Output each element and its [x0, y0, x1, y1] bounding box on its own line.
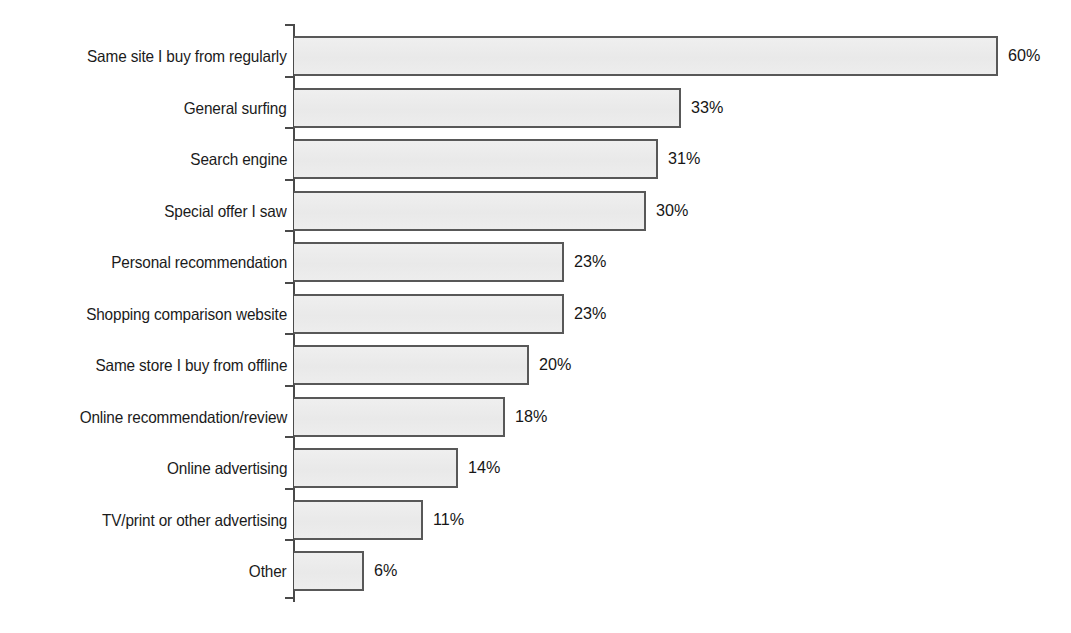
bar-row: Same site I buy from regularly60% [0, 36, 1071, 76]
value-label: 18% [515, 397, 547, 437]
value-label: 14% [468, 448, 500, 488]
bar [294, 500, 423, 540]
bar [294, 191, 646, 231]
value-label: 23% [574, 242, 606, 282]
bar [294, 345, 529, 385]
category-label: Online recommendation/review [79, 397, 287, 437]
category-label: Special offer I saw [165, 191, 287, 231]
axis-tick [285, 76, 293, 78]
axis-tick [285, 597, 293, 599]
bar-row: General surfing33% [0, 88, 1071, 128]
bar [294, 36, 998, 76]
bar-fill [294, 296, 562, 332]
bar-fill [294, 347, 527, 383]
bar [294, 242, 564, 282]
bar-row: Online advertising14% [0, 448, 1071, 488]
bar [294, 294, 564, 334]
value-label: 30% [656, 191, 688, 231]
category-label: TV/print or other advertising [102, 500, 287, 540]
bar-fill [294, 193, 644, 229]
bar-chart: Same site I buy from regularly60%General… [0, 0, 1071, 633]
value-label: 60% [1008, 36, 1040, 76]
category-label: Other [249, 551, 287, 591]
bar [294, 397, 505, 437]
bar-row: TV/print or other advertising11% [0, 500, 1071, 540]
bar-fill [294, 244, 562, 280]
category-label: General surfing [184, 88, 287, 128]
category-label: Shopping comparison website [86, 294, 287, 334]
bar [294, 551, 364, 591]
bar-row: Personal recommendation23% [0, 242, 1071, 282]
category-label: Same store I buy from offline [95, 345, 287, 385]
axis-tick [285, 24, 293, 26]
axis-tick [285, 179, 293, 181]
bar-row: Same store I buy from offline20% [0, 345, 1071, 385]
value-label: 33% [691, 88, 723, 128]
value-label: 23% [574, 294, 606, 334]
value-label: 20% [539, 345, 571, 385]
bar-fill [294, 90, 679, 126]
bar-fill [294, 399, 503, 435]
bar-row: Special offer I saw30% [0, 191, 1071, 231]
bar-fill [294, 141, 656, 177]
category-label: Personal recommendation [111, 242, 287, 282]
bar-fill [294, 502, 421, 538]
category-label: Same site I buy from regularly [87, 36, 287, 76]
bar-row: Search engine31% [0, 139, 1071, 179]
bar-row: Other6% [0, 551, 1071, 591]
axis-tick [285, 488, 293, 490]
value-label: 31% [668, 139, 700, 179]
value-label: 11% [433, 500, 464, 540]
bar [294, 448, 458, 488]
bar-fill [294, 553, 362, 589]
bar-row: Online recommendation/review18% [0, 397, 1071, 437]
axis-tick [285, 385, 293, 387]
bar-fill [294, 450, 456, 486]
bar [294, 139, 658, 179]
value-label: 6% [374, 551, 397, 591]
axis-tick [285, 282, 293, 284]
bar [294, 88, 681, 128]
category-label: Online advertising [167, 448, 287, 488]
bar-fill [294, 38, 996, 74]
category-label: Search engine [190, 139, 287, 179]
bar-row: Shopping comparison website23% [0, 294, 1071, 334]
